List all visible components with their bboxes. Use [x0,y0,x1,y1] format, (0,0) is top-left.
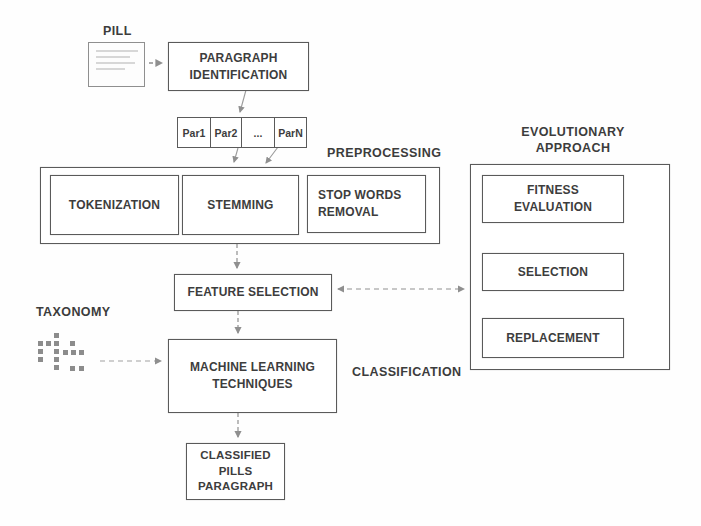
taxonomy-node-dot [71,350,76,355]
paragraph-cell: ParN [275,118,306,147]
taxonomy-node-dot [54,357,59,362]
tokenization-box: TOKENIZATION [50,175,179,235]
replacement-box: REPLACEMENT [482,318,624,358]
taxonomy-node-dot [54,349,59,354]
taxonomy-node-dot [54,333,59,338]
pill-text-line [96,56,130,58]
paragraph-cell: Par2 [211,118,242,147]
preprocessing-label: PREPROCESSING [327,146,441,162]
taxonomy-node-dot [54,341,59,346]
evolutionary-approach-label: EVOLUTIONARY APPROACH [495,125,651,156]
paragraph-cells-row: Par1 Par2 ... ParN [177,117,307,148]
arrow-paragraphs-to-preprocessing-1 [234,148,238,162]
pill-text-line [96,68,125,70]
paragraph-cell-ellipsis: ... [242,118,275,147]
pill-label: PILL [103,24,132,40]
pill-text-line [96,50,138,52]
stop-words-removal-box: STOP WORDS REMOVAL [307,175,426,233]
machine-learning-techniques-box: MACHINE LEARNING TECHNIQUES [168,339,337,413]
stemming-box: STEMMING [182,175,299,235]
taxonomy-node-dot [70,341,75,346]
classified-pills-paragraph-box: CLASSIFIED PILLS PARAGRAPH [186,443,285,500]
taxonomy-node-dot [63,350,68,355]
taxonomy-node-dot [79,366,84,371]
taxonomy-node-dot [38,349,43,354]
pill-text-line [96,62,135,64]
pill-document [88,42,145,87]
taxonomy-label: TAXONOMY [36,305,111,321]
arrow-paragraphs-to-preprocessing-2 [266,147,278,163]
taxonomy-node-dot [70,366,75,371]
paragraph-identification-box: PARAGRAPH IDENTIFICATION [168,42,309,91]
pipeline-diagram: PILL PARAGRAPH IDENTIFICATION Par1 Par2 … [0,0,701,526]
taxonomy-node-dot [46,341,51,346]
paragraph-cell: Par1 [178,118,211,147]
feature-selection-box: FEATURE SELECTION [174,274,332,311]
taxonomy-node-dot [38,341,43,346]
classification-label: CLASSIFICATION [352,365,462,381]
fitness-evaluation-box: FITNESS EVALUATION [482,175,624,223]
taxonomy-node-dot [79,350,84,355]
selection-box: SELECTION [482,253,624,291]
taxonomy-node-dot [38,357,43,362]
taxonomy-node-dot [54,365,59,370]
arrow-paragraph-identification-to-paragraphs [240,90,246,112]
